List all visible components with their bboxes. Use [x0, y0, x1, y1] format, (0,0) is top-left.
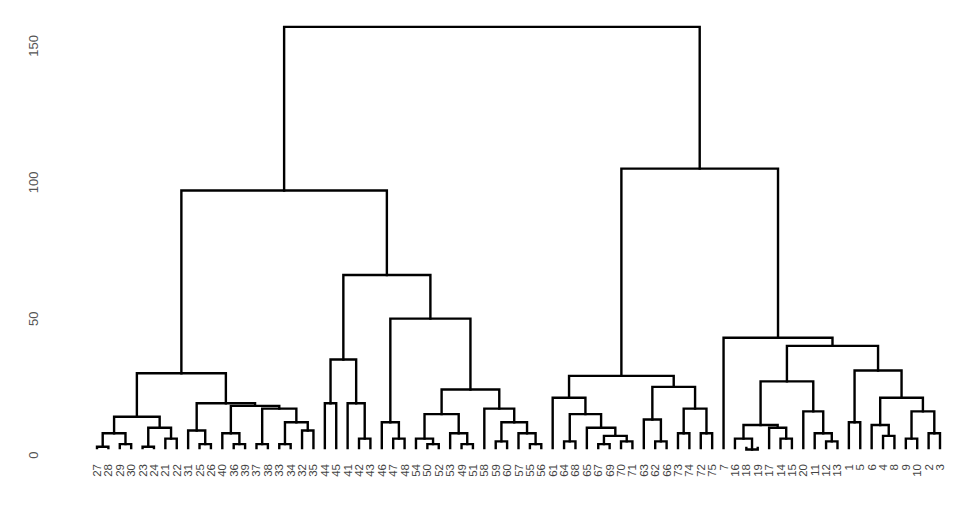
dendrogram-link: [912, 411, 935, 438]
leaf-label: 40: [216, 464, 228, 477]
dendrogram-link: [343, 275, 430, 360]
leaf-label: 54: [410, 463, 422, 476]
dendrogram-link: [114, 417, 160, 433]
leaf-label: 74: [683, 463, 695, 476]
dendrogram-link: [781, 439, 792, 448]
dendrogram-link: [678, 433, 689, 448]
leaf-label: 60: [501, 464, 513, 477]
leaf-label: 42: [353, 464, 365, 477]
dendrogram-link: [761, 381, 814, 425]
leaf-label: 30: [125, 464, 137, 477]
leaf-label: 14: [775, 463, 787, 476]
dendrogram-link: [735, 439, 752, 450]
leaf-label: 22: [171, 464, 183, 477]
leaf-label: 55: [524, 464, 536, 477]
leaf-label: 38: [262, 464, 274, 477]
leaf-label: 18: [740, 464, 752, 477]
leaf-label: 8: [888, 464, 900, 470]
leaf-label: 10: [911, 464, 923, 477]
leaf-label: 29: [114, 464, 126, 477]
leaf-label: 75: [706, 464, 718, 477]
dendrogram-link: [701, 433, 712, 448]
leaf-label: 44: [319, 463, 331, 476]
dendrogram-link: [348, 403, 365, 448]
leaf-label: 32: [296, 464, 308, 477]
dendrogram-link: [302, 430, 313, 448]
leaf-label: 24: [148, 463, 160, 476]
dendrogram-link: [222, 433, 239, 448]
dendrogram-link: [188, 430, 205, 448]
dendrogram-link: [644, 420, 661, 448]
leaf-label: 69: [604, 464, 616, 477]
leaf-label: 50: [421, 464, 433, 477]
leaf-label: 28: [102, 464, 114, 477]
dendrogram-link: [181, 190, 386, 373]
leaf-label: 4: [877, 463, 889, 470]
y-axis: 050100150: [26, 35, 41, 459]
dendrogram-link: [652, 387, 695, 420]
dendrogram-link: [929, 433, 940, 448]
dendrogram-link: [803, 411, 823, 448]
leaf-label: 66: [661, 464, 673, 477]
dendrogram-link: [604, 436, 627, 444]
leaf-label: 12: [820, 464, 832, 477]
dendrogram-link: [165, 439, 176, 448]
dendrogram-link: [390, 319, 470, 423]
dendrogram-link: [724, 338, 833, 448]
dendrogram-link: [883, 436, 894, 448]
leaf-label: 53: [444, 464, 456, 477]
leaf-label: 68: [569, 464, 581, 477]
leaf-label: 13: [831, 464, 843, 477]
leaf-label: 33: [273, 464, 285, 477]
leaf-label: 46: [376, 464, 388, 477]
leaf-label: 70: [615, 464, 627, 477]
leaf-label: 73: [672, 464, 684, 477]
dendrogram-link: [519, 433, 536, 448]
leaf-label: 7: [718, 464, 730, 470]
dendrogram-link: [787, 346, 878, 381]
leaf-label: 37: [250, 464, 262, 477]
dendrogram-link: [331, 360, 357, 404]
dendrogram-link: [285, 422, 308, 444]
leaf-label: 25: [194, 464, 206, 477]
leaf-label: 62: [649, 464, 661, 477]
leaf-label: 41: [342, 464, 354, 477]
dendrogram-link: [262, 409, 296, 444]
dendrogram-plot: 050100150 272829302324212231252640363937…: [0, 0, 970, 518]
leaf-label: 39: [239, 464, 251, 477]
dendrogram-link: [684, 409, 707, 434]
leaf-label: 1: [843, 464, 855, 470]
dendrogram-link: [325, 403, 336, 448]
leaf-label: 64: [558, 463, 570, 476]
dendrogram-link: [621, 169, 778, 376]
leaf-label: 3: [934, 464, 946, 470]
dendrogram-link: [906, 439, 917, 448]
leaf-label: 47: [387, 464, 399, 477]
dendrogram-link: [359, 439, 370, 448]
y-tick-label: 50: [26, 311, 41, 325]
leaf-label: 31: [182, 464, 194, 477]
leaf-label: 51: [467, 464, 479, 477]
leaf-label: 67: [592, 464, 604, 477]
dendrogram-link: [855, 370, 902, 422]
leaf-label: 57: [513, 464, 525, 477]
leaf-label: 52: [433, 464, 445, 477]
dendrogram-link: [425, 414, 459, 439]
leaf-label: 63: [638, 464, 650, 477]
leaf-label: 71: [626, 464, 638, 477]
leaf-label: 16: [729, 464, 741, 477]
leaf-label: 65: [581, 464, 593, 477]
dendrogram-link: [442, 390, 500, 415]
leaf-label: 20: [797, 464, 809, 477]
leaf-label: 11: [809, 464, 821, 476]
leaf-label: 59: [490, 464, 502, 477]
leaf-label: 2: [923, 464, 935, 470]
leaf-label: 34: [285, 463, 297, 476]
leaf-label: 45: [330, 464, 342, 477]
leaf-label: 72: [695, 464, 707, 477]
leaf-label: 27: [91, 464, 103, 477]
dendrogram-link: [450, 433, 467, 448]
y-tick-label: 150: [26, 35, 41, 57]
dendrogram-link: [284, 27, 700, 191]
dendrogram-link: [849, 422, 860, 448]
